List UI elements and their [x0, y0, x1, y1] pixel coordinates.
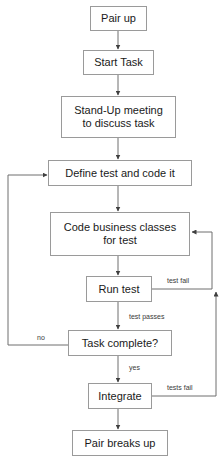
node-integrate[interactable]: Integrate: [88, 383, 152, 409]
node-pair-up[interactable]: Pair up: [90, 6, 147, 31]
edge-taskcomplete-no-to-define: [8, 175, 68, 345]
edge-label-test-fail: test fail: [166, 277, 190, 285]
node-define-test[interactable]: Define test and code it: [48, 160, 192, 186]
node-label: Define test and code it: [65, 167, 174, 180]
node-label-line-2: to discuss task: [82, 117, 154, 130]
node-label-line-1: Code business classes: [64, 221, 177, 234]
node-label: Task complete?: [82, 337, 158, 350]
edge-label-test-passes: test passes: [128, 313, 165, 321]
edge-label-tests-fail: tests fail: [166, 384, 194, 392]
node-start-task[interactable]: Start Task: [83, 50, 154, 75]
node-label: Run test: [99, 283, 140, 296]
node-label: Start Task: [94, 56, 143, 69]
node-label: Integrate: [98, 390, 141, 403]
node-label-line-1: Stand-Up meeting: [74, 104, 163, 117]
edge-label-yes: yes: [128, 364, 141, 372]
node-run-test[interactable]: Run test: [86, 276, 152, 302]
node-task-complete[interactable]: Task complete?: [68, 330, 172, 356]
node-label: Pair breaks up: [85, 437, 156, 450]
flowchart-canvas: Pair up Start Task Stand-Up meeting to d…: [0, 0, 224, 465]
edge-label-no: no: [36, 334, 46, 342]
node-pair-breaks-up[interactable]: Pair breaks up: [72, 430, 168, 456]
node-label-line-2: for test: [103, 234, 137, 247]
node-code-business-classes[interactable]: Code business classes for test: [50, 212, 190, 256]
node-label: Pair up: [101, 12, 136, 25]
node-stand-up-meeting[interactable]: Stand-Up meeting to discuss task: [61, 96, 176, 138]
